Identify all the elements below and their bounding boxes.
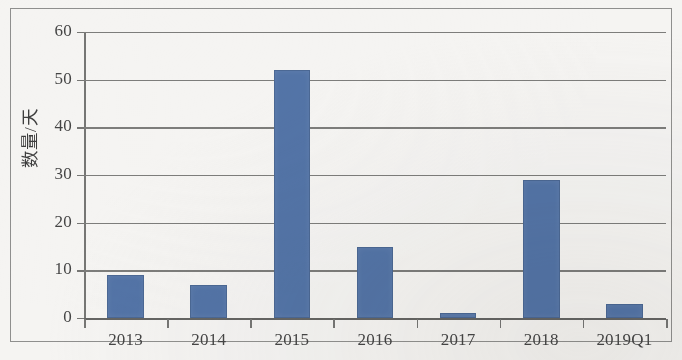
x-axis-label-2013: 2013 <box>84 330 167 350</box>
y-tick-10 <box>77 270 84 271</box>
y-tick-0 <box>77 318 84 319</box>
x-axis-label-2019Q1: 2019Q1 <box>583 330 666 350</box>
x-axis-label-2014: 2014 <box>167 330 250 350</box>
gridline-30 <box>84 175 666 176</box>
x-tick-origin <box>84 319 86 328</box>
y-axis-label-30: 30 <box>0 164 72 184</box>
bar-2014 <box>190 285 227 318</box>
bar-2013 <box>107 275 144 318</box>
bar-2015 <box>274 70 311 318</box>
y-axis-label-50: 50 <box>0 69 72 89</box>
bar-2018 <box>523 180 560 318</box>
y-tick-20 <box>77 223 84 224</box>
x-axis-label-2015: 2015 <box>250 330 333 350</box>
gridline-0 <box>84 318 666 320</box>
y-tick-40 <box>77 127 84 128</box>
x-axis-label-2017: 2017 <box>417 330 500 350</box>
bar-2019Q1 <box>606 304 643 318</box>
x-axis-label-2018: 2018 <box>500 330 583 350</box>
y-axis-label-20: 20 <box>0 212 72 232</box>
y-tick-60 <box>77 32 84 33</box>
x-axis-label-2016: 2016 <box>333 330 416 350</box>
x-tick-0 <box>167 319 169 328</box>
x-tick-3 <box>417 319 419 328</box>
y-axis-label-10: 10 <box>0 259 72 279</box>
x-tick-4 <box>500 319 502 328</box>
gridline-60 <box>84 32 666 33</box>
gridline-40 <box>84 127 666 128</box>
y-axis-label-60: 60 <box>0 21 72 41</box>
x-tick-6 <box>666 319 668 328</box>
x-tick-5 <box>583 319 585 328</box>
y-tick-30 <box>77 175 84 176</box>
x-tick-1 <box>250 319 252 328</box>
y-tick-50 <box>77 80 84 81</box>
bar-2017 <box>440 313 477 318</box>
x-tick-2 <box>333 319 335 328</box>
chart-figure: 数量/天 0102030405060 201320142015201620172… <box>0 0 682 360</box>
y-axis-label-0: 0 <box>0 307 72 327</box>
gridline-50 <box>84 80 666 81</box>
plot-area <box>84 32 666 318</box>
y-axis-label-40: 40 <box>0 116 72 136</box>
bar-2016 <box>357 247 394 319</box>
gridline-20 <box>84 223 666 224</box>
